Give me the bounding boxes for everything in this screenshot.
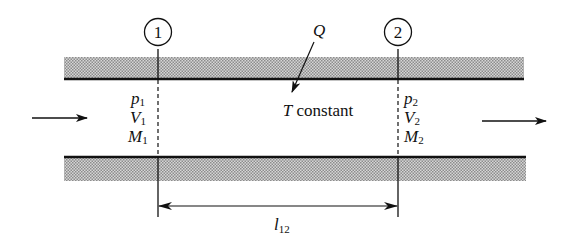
station-2-properties: p2 V2 M2 [403,89,424,146]
velocity-2: V2 [404,108,420,127]
pressure-2: p2 [403,89,418,108]
heat-label: Q [313,21,325,40]
station-2-number: 2 [394,23,403,42]
bottom-duct-wall [64,157,526,181]
length-dimension: l12 [159,206,397,235]
length-label: l12 [274,215,290,235]
station-1-properties: p1 V1 M1 [127,89,148,146]
isothermal-label: T constant [283,101,354,120]
station-1: 1 p1 V1 M1 [127,19,172,218]
mach-1: M1 [127,127,148,146]
heat-transfer: Q [292,21,325,92]
mach-2: M2 [403,127,424,146]
velocity-1: V1 [130,108,146,127]
duct-flow-diagram: 1 p1 V1 M1 2 p2 V2 M2 Q T constant l12 [0,0,562,251]
station-2: 2 p2 V2 M2 [385,19,424,218]
pressure-1: p1 [130,89,145,108]
top-duct-wall [64,57,524,79]
station-1-number: 1 [154,23,163,42]
